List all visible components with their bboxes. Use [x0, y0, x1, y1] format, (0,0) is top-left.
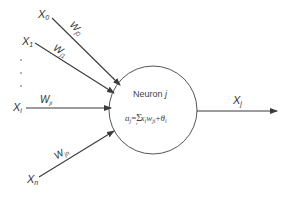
neuron-circle: [109, 66, 197, 154]
input-xi-label: Xi: [12, 101, 22, 114]
input-xn: Xn Wjn: [26, 131, 114, 186]
neuron-title: Neuron j: [133, 89, 168, 99]
weight-w1-label: Wj1: [51, 42, 69, 60]
neuron-formula: aj=Σixiwji+θi: [125, 112, 167, 126]
input-x0-label: X0: [37, 8, 49, 21]
input-xn-label: Xn: [26, 173, 38, 186]
output-xj: Xj: [197, 94, 277, 111]
ellipsis-dots: [20, 59, 22, 87]
input-xn-arrow: [39, 131, 114, 177]
neuron-diagram-svg: X0 Wj0 X1 Wj1 Xi: [0, 0, 290, 198]
input-x0: X0 Wj0: [37, 8, 120, 85]
weight-wi-label: Wji: [40, 94, 53, 106]
input-x1: X1 Wj1: [21, 35, 114, 93]
neuron-diagram: X0 Wj0 X1 Wj1 Xi: [0, 0, 290, 198]
input-x1-label: X1: [21, 35, 33, 48]
input-xi: Xi Wji: [12, 94, 111, 114]
output-xj-label: Xj: [232, 94, 242, 108]
